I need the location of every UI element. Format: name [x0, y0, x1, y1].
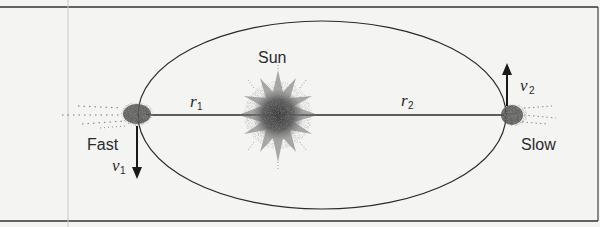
comet-fast-icon [62, 102, 153, 128]
velocity-v1-arrow [132, 126, 142, 179]
slow-label: Slow [521, 136, 556, 153]
svg-text:v: v [112, 156, 120, 175]
v1-label: v 1 [112, 156, 126, 176]
v2-label: v 2 [520, 76, 535, 96]
fast-label: Fast [87, 136, 119, 153]
r2-label: r 2 [401, 91, 414, 111]
svg-text:2: 2 [408, 100, 414, 111]
comet-slow-icon [501, 104, 556, 126]
svg-text:2: 2 [529, 85, 535, 96]
svg-text:r: r [401, 91, 408, 110]
diagram-canvas: Sun Fast Slow r 1 r 2 v 1 v 2 [0, 0, 600, 227]
r1-label: r 1 [190, 92, 203, 112]
svg-text:1: 1 [197, 101, 203, 112]
sun-icon [238, 62, 318, 170]
svg-text:v: v [520, 76, 528, 95]
orbit-diagram: Sun Fast Slow r 1 r 2 v 1 v 2 [0, 0, 600, 227]
svg-text:r: r [190, 92, 197, 111]
sun-label: Sun [258, 49, 286, 66]
svg-text:1: 1 [120, 165, 126, 176]
